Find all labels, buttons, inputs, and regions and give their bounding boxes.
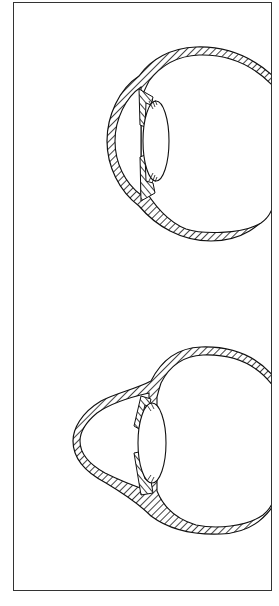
figure-caption	[14, 596, 274, 606]
eye-illustrations	[14, 3, 272, 591]
normal-eye-diagram	[107, 47, 272, 241]
vitreous-body-2	[157, 355, 272, 527]
lens-2	[138, 403, 166, 483]
lens	[143, 101, 169, 181]
cone-cornea-eye-diagram	[73, 347, 272, 534]
figure-frame	[13, 2, 272, 591]
